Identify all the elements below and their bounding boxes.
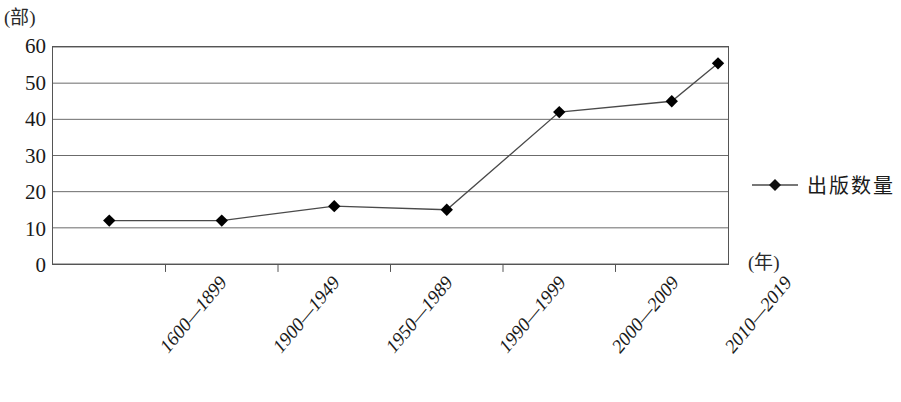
x-axis-tick-label: 1900—1949	[268, 272, 345, 357]
x-axis-tick-label: 1600—1899	[156, 272, 233, 357]
y-axis-tick-label: 0	[0, 255, 46, 276]
x-axis-tick-label: 1990—1999	[494, 272, 571, 357]
line-chart-figure: (部) 0102030405060 1600—18991900—19491950…	[0, 0, 901, 402]
series-line	[109, 63, 718, 220]
x-axis-tick-label: 1950—1989	[381, 272, 458, 357]
y-axis-tick-label: 50	[0, 72, 46, 93]
plot-area	[52, 46, 729, 265]
diamond-line-marker-icon	[752, 177, 798, 193]
data-series-layer	[53, 47, 728, 264]
y-axis-tick-label: 10	[0, 218, 46, 239]
y-axis-unit-label: (部)	[4, 2, 36, 29]
x-axis-tick-label: 2010—2019	[720, 272, 797, 357]
x-axis-tick-label: 2000—2009	[607, 272, 684, 357]
x-axis-tick-labels: 1600—18991900—19491950—19891990—19992000…	[52, 272, 729, 397]
legend-series-label: 出版数量	[807, 170, 895, 199]
data-point-marker[interactable]	[103, 214, 115, 226]
x-axis-unit-label: (年)	[748, 247, 780, 274]
y-axis-tick-labels: 0102030405060	[0, 46, 46, 265]
y-axis-tick-label: 40	[0, 109, 46, 130]
y-axis-tick-label: 20	[0, 182, 46, 203]
y-axis-tick-label: 30	[0, 145, 46, 166]
y-axis-tick-label: 60	[0, 36, 46, 57]
data-point-marker[interactable]	[216, 214, 228, 226]
chart-legend: 出版数量	[752, 170, 895, 199]
data-point-marker[interactable]	[328, 200, 340, 212]
